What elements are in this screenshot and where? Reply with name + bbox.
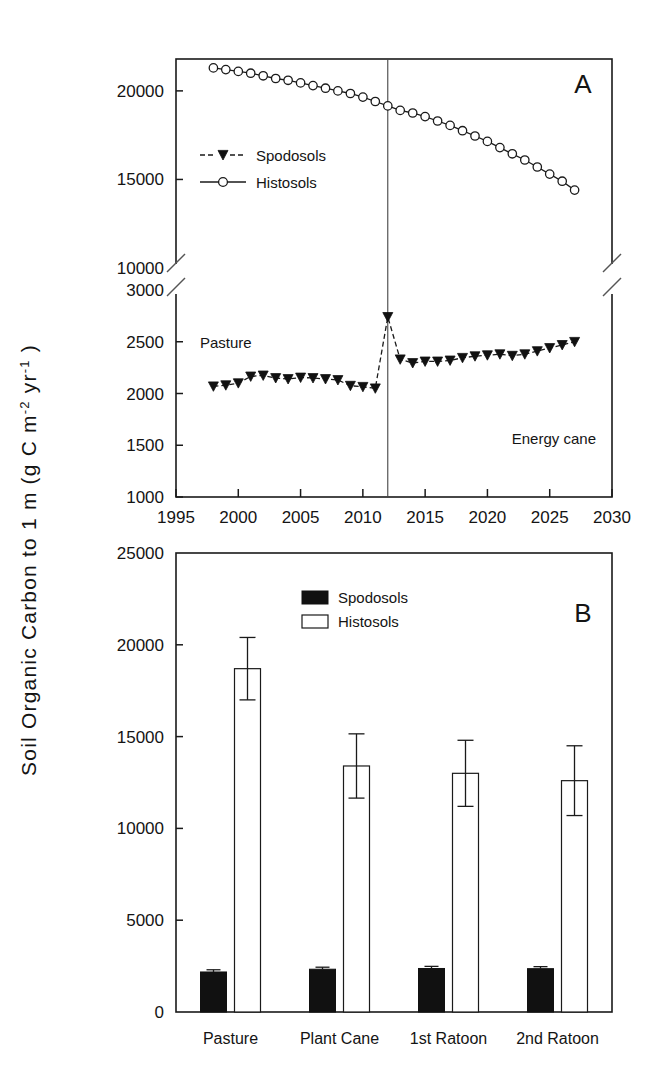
panel-b-ytick-label: 25000 — [117, 544, 164, 563]
histosols-point — [446, 121, 454, 129]
histosols-point — [296, 79, 304, 87]
histosols-point — [222, 65, 230, 73]
figure-root: 1000015000200001000150020002500300019952… — [0, 0, 666, 1091]
spodosols-point — [482, 351, 492, 360]
spodosols-point — [458, 353, 468, 362]
panel-a-xtick-label: 2010 — [344, 508, 382, 527]
panel-a-xtick-label: 1995 — [157, 508, 195, 527]
histosols-point — [384, 102, 392, 110]
histosols-point — [309, 81, 317, 89]
panel-b: 0500010000150002000025000PasturePlant Ca… — [17, 344, 613, 1047]
panel-a-xtick-label: 2015 — [406, 508, 444, 527]
histosols-point — [471, 132, 479, 140]
spodosols-point — [233, 379, 243, 388]
panel-a-ytick-label-lower: 1000 — [126, 488, 164, 507]
histosols-point — [321, 84, 329, 92]
panel-a-ytick-label-upper: 20000 — [117, 82, 164, 101]
histosols-point — [496, 143, 504, 151]
histosols-point — [508, 150, 516, 158]
histosols-point — [483, 137, 491, 145]
y-axis-title-group: Soil Organic Carbon to 1 m (g C m-2 yr-1… — [17, 344, 41, 776]
panel-b-ytick-label: 5000 — [126, 911, 164, 930]
panel-a-annotation-pasture: Pasture — [200, 334, 252, 351]
y-axis-title: Soil Organic Carbon to 1 m (g C m-2 yr-1… — [17, 344, 41, 776]
bar-spodosols — [201, 972, 227, 1012]
panel-a-ytick-label-upper: 10000 — [117, 259, 164, 278]
panel-a-label: A — [574, 69, 592, 99]
bar-spodosols — [419, 968, 445, 1012]
legend-spodosols-marker — [218, 150, 228, 160]
histosols-point — [521, 156, 529, 164]
panel-b-ytick-label: 10000 — [117, 819, 164, 838]
histosols-point — [359, 93, 367, 101]
legend-b-histosols-swatch — [302, 615, 328, 628]
legend-b-spodosols-label: Spodosols — [338, 589, 408, 606]
spodosols-point — [296, 373, 306, 382]
bar-spodosols — [528, 969, 554, 1012]
histosols-point — [421, 112, 429, 120]
histosols-point — [409, 109, 417, 117]
figure-svg: 1000015000200001000150020002500300019952… — [0, 0, 666, 1091]
legend-histosols-label: Histosols — [256, 174, 317, 191]
histosols-point — [458, 127, 466, 135]
bar-histosols — [235, 669, 261, 1012]
panel-b-ytick-label: 0 — [155, 1003, 164, 1022]
panel-b-category-label: 1st Ratoon — [410, 1030, 487, 1047]
spodosols-point — [507, 351, 517, 360]
histosols-point — [284, 76, 292, 84]
panel-a-legend: SpodosolsHistosols — [200, 147, 326, 191]
legend-b-spodosols-swatch — [302, 591, 328, 604]
spodosols-point — [383, 313, 393, 322]
histosols-point — [433, 117, 441, 125]
panel-b-category-label: Plant Cane — [300, 1030, 379, 1047]
panel-b-ytick-label: 15000 — [117, 728, 164, 747]
spodosols-point — [545, 344, 555, 353]
panel-b-category-label: 2nd Ratoon — [516, 1030, 599, 1047]
histosols-point — [259, 72, 267, 80]
panel-a-ytick-label-lower: 2000 — [126, 385, 164, 404]
panel-b-category-label: Pasture — [203, 1030, 258, 1047]
histosols-point — [247, 69, 255, 77]
series-spodosols — [208, 313, 579, 394]
panel-a-xtick-label: 2030 — [593, 508, 631, 527]
spodosols-point — [370, 384, 380, 393]
histosols-line — [213, 68, 574, 190]
histosols-point — [546, 170, 554, 178]
histosols-point — [371, 97, 379, 105]
spodosols-point — [321, 375, 331, 384]
panel-a-xtick-label: 2020 — [469, 508, 507, 527]
histosols-point — [346, 89, 354, 97]
bar-histosols — [344, 766, 370, 1012]
histosols-point — [396, 106, 404, 114]
panel-a-ytick-label-lower: 1500 — [126, 436, 164, 455]
panel-a-xtick-label: 2025 — [531, 508, 569, 527]
spodosols-point — [395, 355, 405, 364]
panel-b-label: B — [574, 598, 591, 628]
panel-a-ytick-label-upper: 15000 — [117, 170, 164, 189]
panel-a: 1000015000200001000150020002500300019952… — [17, 59, 631, 1047]
histosols-point — [334, 87, 342, 95]
bar-spodosols — [310, 969, 336, 1012]
legend-histosols-marker — [219, 178, 228, 187]
panel-a-xtick-label: 2005 — [282, 508, 320, 527]
panel-a-xtick-label: 2000 — [219, 508, 257, 527]
histosols-point — [272, 74, 280, 82]
panel-a-ytick-label-lower: 3000 — [126, 281, 164, 300]
panel-b-ytick-label: 20000 — [117, 636, 164, 655]
legend-b-histosols-label: Histosols — [338, 613, 399, 630]
bar-histosols — [453, 773, 479, 1012]
legend-spodosols-label: Spodosols — [256, 147, 326, 164]
panel-b-bars: PasturePlant Cane1st Ratoon2nd Ratoon — [201, 637, 599, 1047]
histosols-point — [209, 64, 217, 72]
histosols-point — [558, 177, 566, 185]
histosols-point — [234, 67, 242, 75]
panel-a-annotation-energy-cane: Energy cane — [512, 430, 596, 447]
spodosols-line — [213, 317, 574, 388]
histosols-point — [570, 186, 578, 194]
panel-a-ytick-label-lower: 2500 — [126, 333, 164, 352]
panel-b-legend: SpodosolsHistosols — [302, 589, 408, 630]
spodosols-point — [408, 359, 418, 368]
histosols-point — [533, 163, 541, 171]
